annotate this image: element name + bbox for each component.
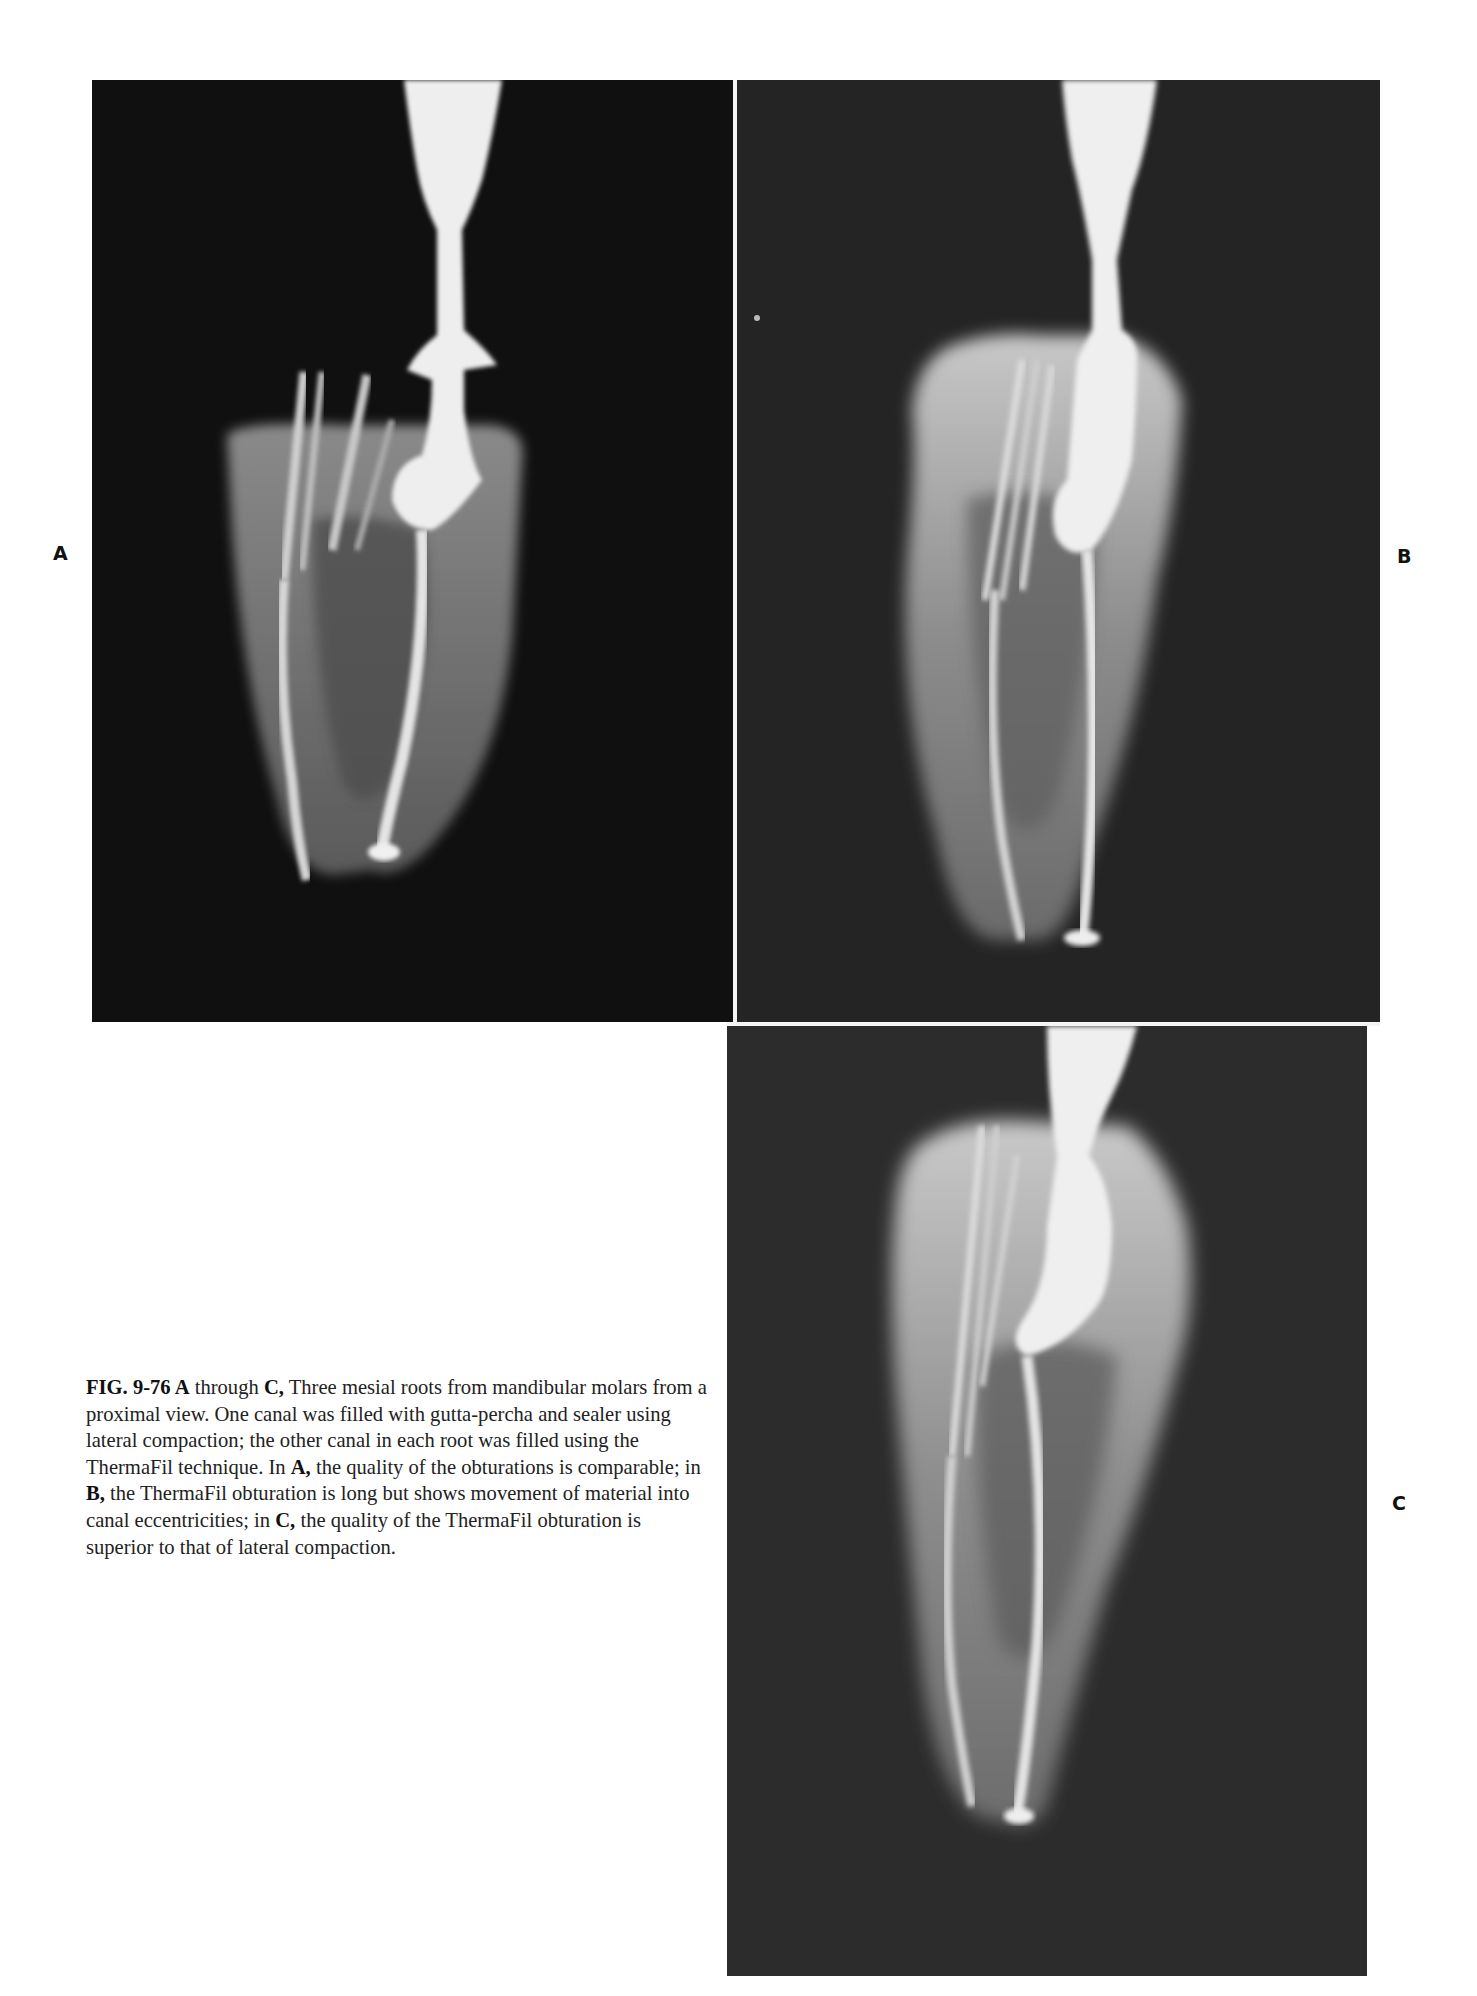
panel-divider-vertical — [733, 80, 737, 1026]
caption-ref-c: C, — [264, 1376, 284, 1398]
caption-ref-a: A — [175, 1376, 190, 1398]
panel-label-b: B — [1397, 545, 1411, 567]
radiograph-panel-c — [727, 1026, 1367, 1976]
panel-label-c: C — [1392, 1492, 1406, 1514]
radiograph-c-image — [727, 1026, 1367, 1976]
caption-ref-c: C, — [275, 1509, 295, 1531]
caption-ref-a: A, — [291, 1456, 311, 1478]
radiograph-panel-b — [737, 80, 1380, 1022]
figure-caption: FIG. 9-76 A through C, Three mesial root… — [86, 1374, 712, 1560]
caption-text: through — [190, 1376, 264, 1398]
caption-text: the quality of the obturations is compar… — [311, 1456, 701, 1478]
caption-ref-b: B, — [86, 1482, 105, 1504]
caption-figure-number: FIG. 9-76 — [86, 1376, 175, 1398]
radiograph-a-image — [92, 80, 733, 1022]
radiograph-b-image — [737, 80, 1380, 1022]
panel-label-a: A — [53, 542, 68, 564]
radiograph-panel-a — [92, 80, 733, 1022]
